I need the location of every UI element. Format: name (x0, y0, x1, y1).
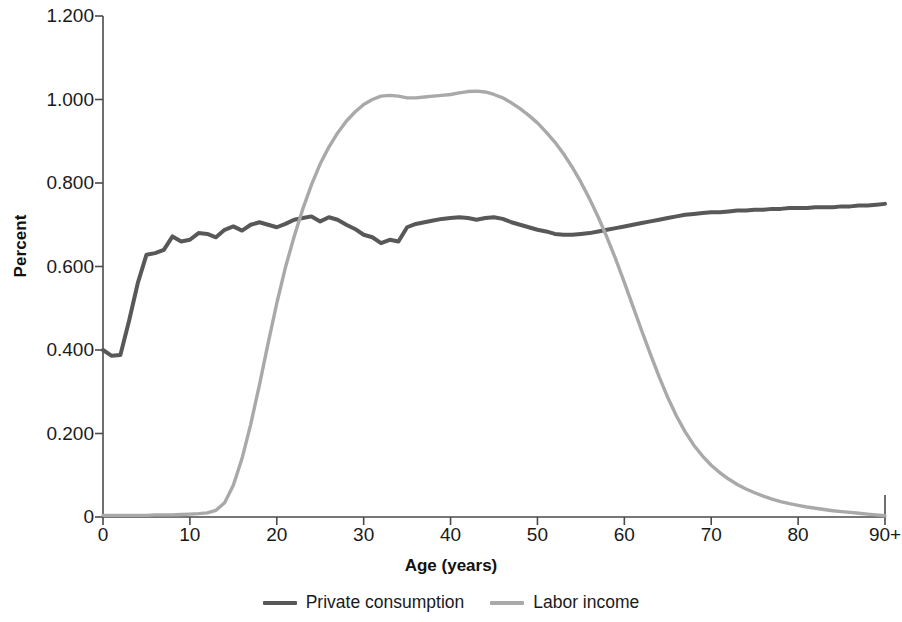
x-axis-tick-label: 30 (353, 524, 374, 546)
x-axis-tick-label: 40 (440, 524, 461, 546)
legend-label: Labor income (533, 592, 639, 613)
x-axis-tick-label: 10 (179, 524, 200, 546)
x-axis-tick-label: 70 (701, 524, 722, 546)
y-axis-tick-label: 0.400 (6, 339, 94, 361)
x-axis-title: Age (years) (0, 556, 902, 576)
y-axis-tick-label: 0.600 (6, 256, 94, 278)
chart-figure: Percent 00.2000.4000.6000.8001.0001.200 … (0, 0, 902, 622)
legend-item-private-consumption[interactable]: Private consumption (263, 592, 465, 613)
x-axis-tick-label: 80 (788, 524, 809, 546)
series-line-labor-income (103, 91, 885, 516)
y-axis-tick-label: 0.200 (6, 423, 94, 445)
legend-label: Private consumption (306, 592, 465, 613)
series-line-private-consumption (103, 204, 885, 356)
x-axis-tick-label: 20 (266, 524, 287, 546)
y-axis-tick-label: 0 (6, 506, 94, 528)
legend-swatch-icon (490, 601, 524, 605)
y-axis-tick-label: 1.200 (6, 5, 94, 27)
chart-legend: Private consumptionLabor income (0, 592, 902, 613)
y-axis-tick-labels: 00.2000.4000.6000.8001.0001.200 (0, 0, 94, 622)
y-axis-tick-label: 1.000 (6, 89, 94, 111)
x-axis-tick-label: 0 (98, 524, 109, 546)
legend-swatch-icon (263, 601, 297, 605)
y-axis-tick-label: 0.800 (6, 172, 94, 194)
chart-series (103, 91, 885, 516)
x-axis-tick-label: 50 (527, 524, 548, 546)
legend-item-labor-income[interactable]: Labor income (490, 592, 639, 613)
x-axis-tick-label: 90+ (869, 524, 901, 546)
x-axis-tick-label: 60 (614, 524, 635, 546)
